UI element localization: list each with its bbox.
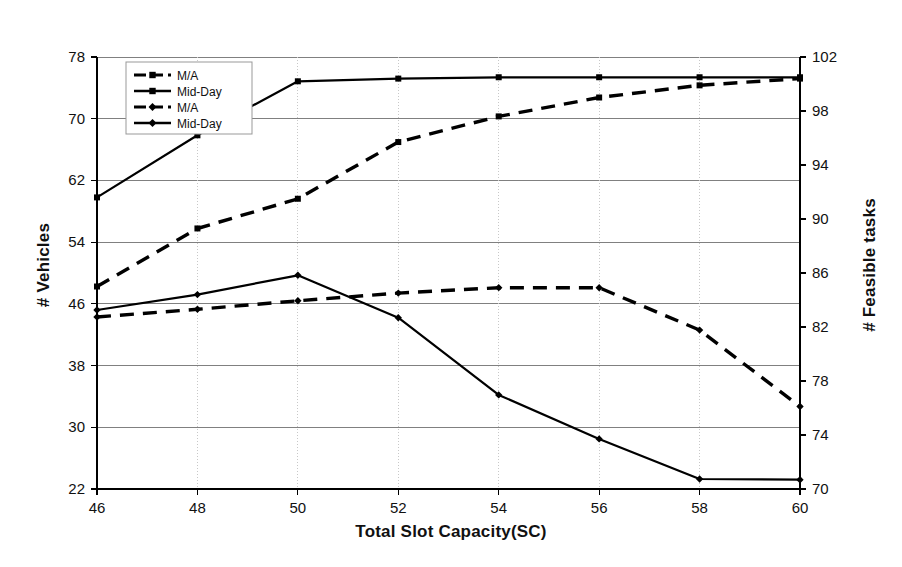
tick-label-x: 54	[490, 499, 507, 516]
data-point-marker	[194, 225, 200, 231]
tick-label-right: 86	[812, 264, 829, 281]
y-axis-label-left: # Vehicles	[34, 185, 54, 345]
data-point-marker	[496, 113, 502, 119]
legend-label-2: M/A	[177, 101, 198, 115]
tick-label-right: 102	[812, 48, 837, 65]
data-point-marker	[395, 139, 401, 145]
tick-label-right: 90	[812, 210, 829, 227]
tick-label-left: 22	[68, 480, 85, 497]
data-point-marker	[395, 76, 401, 82]
tick-label-right: 70	[812, 480, 829, 497]
tick-label-x: 60	[792, 499, 809, 516]
tick-label-left: 38	[68, 357, 85, 374]
tick-label-right: 94	[812, 156, 829, 173]
tick-label-x: 56	[591, 499, 608, 516]
tick-label-x: 48	[189, 499, 206, 516]
data-point-marker	[94, 284, 100, 290]
data-point-marker	[797, 74, 803, 80]
tick-label-left: 46	[68, 295, 85, 312]
tick-label-left: 78	[68, 48, 85, 65]
y-axis-label-right: # Feasible tasks	[860, 175, 880, 355]
tick-label-x: 52	[390, 499, 407, 516]
data-point-marker	[697, 82, 703, 88]
tick-label-right: 78	[812, 372, 829, 389]
data-point-marker	[295, 196, 301, 202]
tick-label-left: 62	[68, 171, 85, 188]
line-chart-canvas: 2230384654627078 7074788286909498102 464…	[0, 0, 902, 567]
data-point-marker	[596, 74, 602, 80]
legend-label-1: Mid-Day	[177, 85, 222, 99]
legend-label-3: Mid-Day	[177, 117, 222, 131]
tick-label-right: 98	[812, 102, 829, 119]
tick-label-left: 54	[68, 233, 85, 250]
legend-label-0: M/A	[177, 69, 198, 83]
tick-label-left: 70	[68, 110, 85, 127]
chart-figure: 2230384654627078 7074788286909498102 464…	[0, 0, 902, 567]
data-point-marker	[697, 74, 703, 80]
tick-label-right: 74	[812, 426, 829, 443]
data-point-marker	[94, 194, 100, 200]
data-point-marker	[596, 95, 602, 101]
tick-label-right: 82	[812, 318, 829, 335]
data-point-marker	[496, 74, 502, 80]
legend-marker-1	[149, 88, 155, 94]
tick-label-x: 46	[89, 499, 106, 516]
data-point-marker	[295, 78, 301, 84]
tick-label-left: 30	[68, 418, 85, 435]
legend-marker-0	[149, 72, 155, 78]
x-axis-label: Total Slot Capacity(SC)	[0, 522, 902, 542]
tick-label-x: 50	[290, 499, 307, 516]
tick-label-x: 58	[691, 499, 708, 516]
chart-legend: M/AMid-DayM/AMid-Day	[126, 62, 252, 134]
